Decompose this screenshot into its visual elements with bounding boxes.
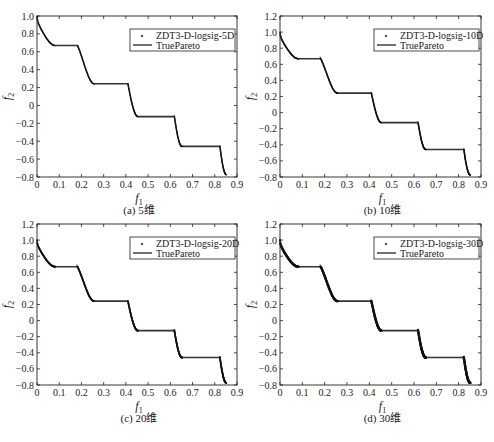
x-tick-label: 0.3 xyxy=(97,179,110,190)
x-tick-label: 0 xyxy=(35,179,40,190)
y-axis-label: f2 xyxy=(243,93,259,100)
x-tick-label: 0.1 xyxy=(53,387,66,398)
y-tick-label: 0.4 xyxy=(265,283,278,294)
x-tick-label: 0.8 xyxy=(452,179,465,190)
subplot-caption: (d) 30维 xyxy=(364,412,402,425)
subplot-c: 00.10.20.30.40.50.60.70.80.9−0.8−0.6−0.4… xyxy=(0,219,243,426)
y-tick-label: 0.6 xyxy=(265,267,278,278)
legend-point-marker xyxy=(141,243,143,245)
solution-points xyxy=(279,31,471,175)
figure-canvas: 00.10.20.30.40.50.60.70.80.9−0.8−0.6−0.4… xyxy=(0,0,494,442)
y-tick-label: 0.6 xyxy=(265,59,278,70)
x-tick-label: 0.6 xyxy=(164,387,177,398)
subplot-caption: (b) 10维 xyxy=(364,204,402,217)
y-tick-label: 0 xyxy=(29,315,34,326)
true-pareto-line xyxy=(37,240,226,383)
x-tick-label: 0.6 xyxy=(408,387,421,398)
y-axis-label: f2 xyxy=(0,93,16,100)
x-tick-label: 0.6 xyxy=(408,179,421,190)
subplot-b: 00.10.20.30.40.50.60.70.80.9−0.8−0.6−0.4… xyxy=(243,11,487,218)
y-tick-label: 0.4 xyxy=(22,64,35,75)
legend-label-line: TruePareto xyxy=(400,40,444,51)
y-tick-label: 0.2 xyxy=(22,82,35,93)
x-tick-label: 0.5 xyxy=(385,179,398,190)
legend: ZDT3-D-logsig-10DTruePareto xyxy=(374,29,483,51)
y-tick-label: −0.8 xyxy=(16,172,34,183)
y-axis-label: f2 xyxy=(243,301,259,308)
y-tick-label: 1.2 xyxy=(22,219,35,230)
legend-point-marker xyxy=(141,35,143,37)
y-tick-label: 0 xyxy=(29,100,34,111)
y-tick-label: 0.6 xyxy=(22,46,35,57)
y-tick-label: 0.2 xyxy=(22,299,35,310)
x-tick-label: 0.5 xyxy=(142,387,155,398)
x-tick-label: 0.2 xyxy=(318,387,331,398)
x-tick-label: 0.5 xyxy=(385,387,398,398)
true-pareto-line xyxy=(280,32,470,175)
y-tick-label: 0.8 xyxy=(22,28,35,39)
legend-label-line: TruePareto xyxy=(156,40,200,51)
y-tick-label: 0 xyxy=(272,107,277,118)
true-pareto-line xyxy=(280,240,470,383)
subplot-caption: (c) 20维 xyxy=(121,412,158,425)
x-tick-label: 0.2 xyxy=(75,387,88,398)
x-tick-label: 0.1 xyxy=(53,179,66,190)
x-tick-label: 0.3 xyxy=(97,387,110,398)
x-tick-label: 0.7 xyxy=(430,387,443,398)
legend-point-marker xyxy=(385,243,387,245)
x-tick-label: 0.9 xyxy=(475,387,488,398)
y-tick-label: −0.4 xyxy=(259,347,277,358)
x-tick-label: 0.3 xyxy=(341,179,354,190)
y-tick-label: −0.2 xyxy=(16,331,34,342)
y-tick-label: 1.2 xyxy=(265,11,278,22)
y-axis-label: f2 xyxy=(0,301,16,308)
y-tick-label: 1.0 xyxy=(22,11,35,22)
x-tick-label: 0.4 xyxy=(120,387,133,398)
x-tick-label: 0.7 xyxy=(186,387,199,398)
legend-point-marker xyxy=(385,35,387,37)
x-tick-label: 0 xyxy=(278,387,283,398)
y-tick-label: −0.6 xyxy=(16,154,34,165)
y-tick-label: 0.4 xyxy=(22,283,35,294)
x-tick-label: 0.2 xyxy=(318,179,331,190)
solution-points xyxy=(279,239,472,384)
y-tick-label: −0.8 xyxy=(16,380,34,391)
y-tick-label: −0.8 xyxy=(259,380,277,391)
solution-points xyxy=(36,239,227,384)
y-tick-label: 0.4 xyxy=(265,75,278,86)
y-tick-label: −0.6 xyxy=(259,363,277,374)
y-tick-label: 0 xyxy=(272,315,277,326)
x-tick-label: 0.7 xyxy=(186,179,199,190)
legend-label-line: TruePareto xyxy=(400,248,444,259)
y-tick-label: −0.4 xyxy=(16,136,34,147)
x-tick-label: 0.2 xyxy=(75,179,88,190)
legend: ZDT3-D-logsig-30DTruePareto xyxy=(374,237,483,259)
y-tick-label: −0.2 xyxy=(259,123,277,134)
x-tick-label: 0 xyxy=(278,179,283,190)
y-tick-label: −0.4 xyxy=(16,347,34,358)
legend: ZDT3-D-logsig-20DTruePareto xyxy=(130,237,239,259)
x-tick-label: 0.8 xyxy=(209,387,222,398)
x-tick-label: 0.3 xyxy=(341,387,354,398)
subplot-a: 00.10.20.30.40.50.60.70.80.9−0.8−0.6−0.4… xyxy=(0,11,243,218)
subplot-caption: (a) 5维 xyxy=(123,204,154,217)
x-tick-label: 0.4 xyxy=(363,387,376,398)
y-tick-label: −0.4 xyxy=(259,139,277,150)
x-tick-label: 0.4 xyxy=(120,179,133,190)
x-tick-label: 0.1 xyxy=(296,179,309,190)
x-tick-label: 0.1 xyxy=(296,387,309,398)
x-tick-label: 0.9 xyxy=(475,179,488,190)
y-tick-label: 0.6 xyxy=(22,267,35,278)
x-tick-label: 0 xyxy=(35,387,40,398)
y-tick-label: 1.0 xyxy=(265,235,278,246)
subplot-d: 00.10.20.30.40.50.60.70.80.9−0.8−0.6−0.4… xyxy=(243,219,487,426)
x-tick-label: 0.9 xyxy=(231,179,244,190)
x-tick-label: 0.7 xyxy=(430,179,443,190)
y-tick-label: 0.2 xyxy=(265,299,278,310)
x-tick-label: 0.4 xyxy=(363,179,376,190)
legend-label-line: TruePareto xyxy=(156,248,200,259)
y-tick-label: −0.8 xyxy=(259,172,277,183)
x-tick-label: 0.8 xyxy=(209,179,222,190)
legend: ZDT3-D-logsig-5DTruePareto xyxy=(130,29,235,51)
y-tick-label: 0.8 xyxy=(265,43,278,54)
